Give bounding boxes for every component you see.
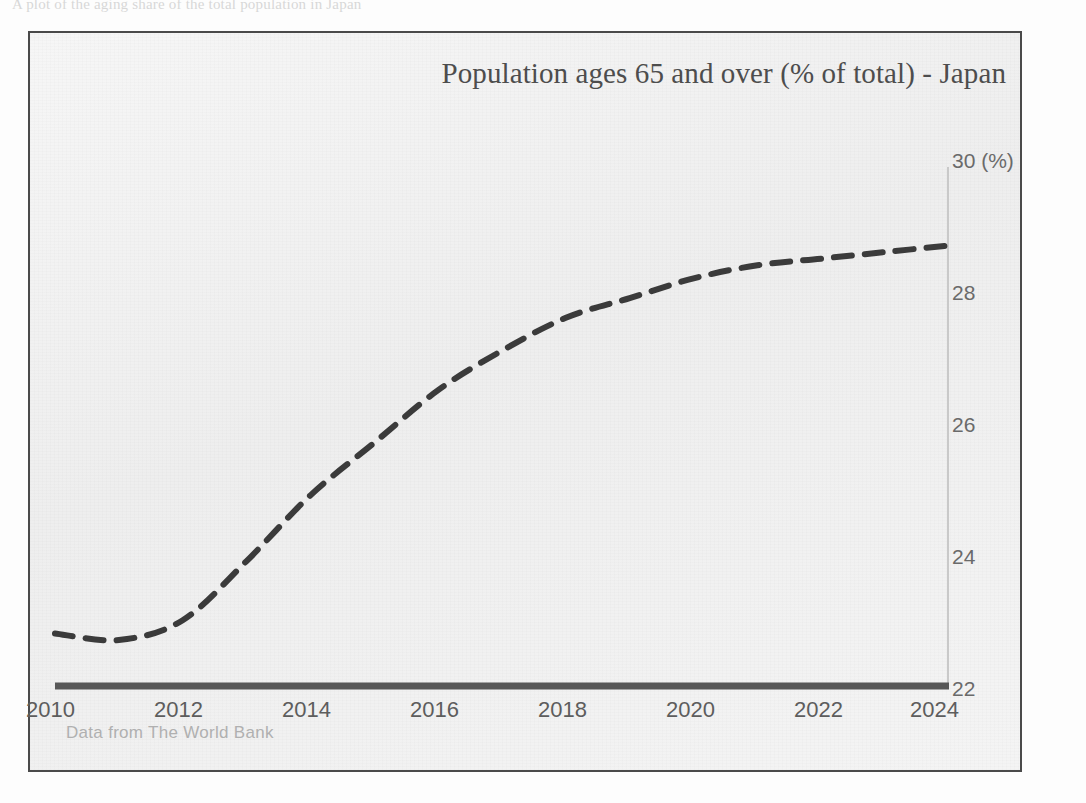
source-note: Data from The World Bank [66,723,274,743]
y-tick-label-30: 30 (%) [952,149,1014,173]
x-tick-label-2014: 2014 [282,697,331,723]
x-tick-label-2022: 2022 [794,697,843,723]
data-series-line [55,245,949,640]
chart-plot-area [30,33,1024,774]
x-tick-label-2024: 2024 [910,697,959,723]
x-tick-label-2010: 2010 [26,697,75,723]
chart-frame: Population ages 65 and over (% of total)… [28,31,1022,772]
page-bleed-text: A plot of the aging share of the total p… [12,0,632,18]
x-tick-label-2018: 2018 [538,697,587,723]
plot-stage: Population ages 65 and over (% of total)… [30,33,1020,770]
scanned-page: A plot of the aging share of the total p… [0,0,1086,803]
y-tick-label-28: 28 [952,281,975,305]
x-tick-label-2020: 2020 [666,697,715,723]
y-tick-label-24: 24 [952,545,975,569]
x-tick-label-2016: 2016 [410,697,459,723]
y-tick-label-26: 26 [952,413,975,437]
x-tick-label-2012: 2012 [154,697,203,723]
